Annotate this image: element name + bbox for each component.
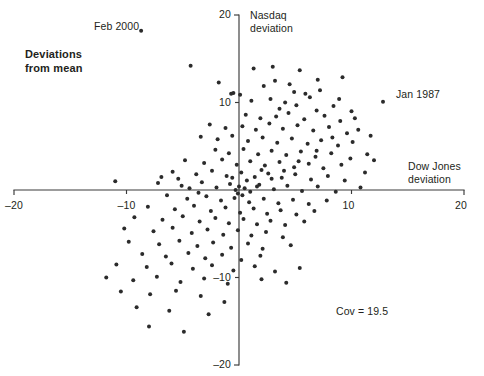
data-point [224,206,228,210]
data-point [365,152,369,156]
data-point [356,128,360,132]
data-point [325,199,329,203]
data-point [249,234,253,238]
data-point [164,255,168,259]
data-point [188,186,192,190]
data-point [249,99,253,103]
data-point [211,241,215,245]
data-point [210,169,214,173]
data-point [269,219,273,223]
data-point [270,177,274,181]
data-point [258,116,262,120]
data-point [330,136,334,140]
data-point [139,29,143,33]
data-point [288,82,292,86]
data-point [230,134,234,138]
data-point [252,206,256,210]
data-point [372,158,376,162]
data-point [194,172,198,176]
data-point [332,104,336,108]
data-point [114,262,118,266]
data-point [300,189,304,193]
data-point [170,262,174,266]
data-point [272,187,276,191]
data-point [314,155,318,159]
data-point [275,141,279,145]
data-point [334,190,338,194]
x-axis-title-line2: deviation [408,173,461,186]
data-point [231,269,235,273]
data-point [146,205,150,209]
data-point [177,239,181,243]
data-point [256,152,260,156]
data-point [298,68,302,72]
x-tick-label: –20 [5,199,23,211]
data-point [127,240,131,244]
data-point [315,108,319,112]
data-point [339,163,343,167]
data-point [190,231,194,235]
data-point [185,197,189,201]
figure-title: Deviations from mean [25,48,83,76]
data-point [327,125,331,129]
data-point [233,196,237,200]
data-point [284,153,288,157]
data-point [298,266,302,270]
y-axis-title: Nasdaq deviation [250,9,293,34]
data-point [329,151,333,155]
data-point [274,115,278,119]
data-point [318,88,322,92]
data-point [174,289,178,293]
data-point [292,90,296,94]
data-point [192,204,196,208]
data-point [338,119,342,123]
data-point [260,277,264,281]
data-point [208,122,212,126]
data-point [239,171,243,175]
data-point [220,253,224,257]
data-point [119,290,123,294]
data-point [253,175,257,179]
data-point [122,227,126,231]
data-point [213,148,217,152]
data-point [287,111,291,115]
data-point [261,247,265,251]
data-point [165,193,169,197]
data-point [202,276,206,280]
data-point [276,201,280,205]
data-point [306,142,310,146]
data-point [220,157,224,161]
data-point [171,226,175,230]
y-tick-label: 10 [211,96,231,108]
data-point [315,149,319,153]
data-point [224,126,228,130]
data-point [350,109,354,113]
data-point [255,222,259,226]
data-point [167,309,171,313]
y-axis-title-line1: Nasdaq [250,9,293,22]
data-point [278,107,282,111]
data-point [197,191,201,195]
data-point [316,185,320,189]
data-point [369,134,373,138]
data-point [296,123,300,127]
data-point [147,325,151,329]
data-point [140,252,144,256]
data-point [246,241,250,245]
data-point [273,269,277,273]
data-point [264,230,268,234]
data-point [290,136,294,140]
data-point [235,163,239,167]
data-point [353,116,357,120]
data-point [156,181,160,185]
data-point [202,161,206,165]
data-point [219,199,223,203]
data-points-group [104,29,385,334]
data-point [113,179,117,183]
covariance-note: Cov = 19.5 [336,305,388,317]
data-point [206,227,210,231]
data-point [157,242,161,246]
data-point [182,330,186,334]
annotation-feb-2000: Feb 2000 [94,20,139,32]
data-point [336,143,340,147]
